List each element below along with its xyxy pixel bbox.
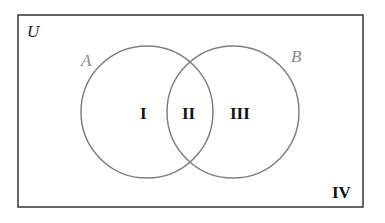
region-i-label: I	[140, 104, 147, 123]
region-ii-label: II	[182, 104, 196, 123]
region-iii-label: III	[230, 104, 250, 123]
set-b-label: B	[291, 47, 302, 66]
set-a-label: A	[80, 51, 92, 70]
universe-label: U	[27, 22, 41, 41]
venn-diagram: U A B I II III IV	[0, 0, 385, 223]
region-iv-label: IV	[332, 183, 352, 202]
